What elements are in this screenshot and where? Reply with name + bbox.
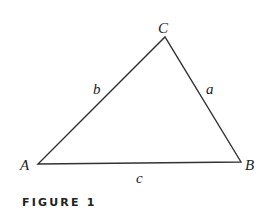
vertex-label-b: B	[245, 157, 254, 173]
figure-caption: FIGURE 1	[22, 196, 97, 209]
triangle-diagram: C A B b a c	[0, 0, 267, 214]
side-label-c: c	[136, 170, 143, 186]
vertex-label-c: C	[158, 20, 169, 36]
side-label-b: b	[93, 81, 101, 97]
vertex-label-a: A	[19, 157, 30, 173]
side-label-a: a	[206, 81, 214, 97]
triangle-abc	[38, 37, 241, 164]
